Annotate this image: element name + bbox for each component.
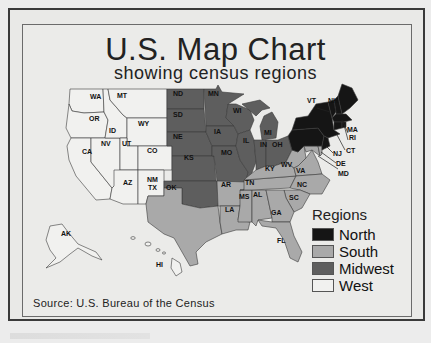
legend-swatch-south (312, 245, 334, 258)
label-sd: SD (173, 111, 183, 118)
label-nh: NH (328, 97, 338, 104)
label-wa: WA (90, 93, 101, 100)
label-fl: FL (277, 237, 286, 244)
label-vt: VT (307, 97, 317, 104)
legend-label: Midwest (339, 260, 394, 277)
label-tx: TX (148, 184, 157, 191)
label-al: AL (253, 191, 263, 198)
label-mn: MN (208, 90, 219, 97)
label-hi: HI (156, 261, 163, 268)
state-hi (131, 237, 182, 276)
legend-label: South (339, 243, 378, 260)
label-ut: UT (122, 140, 132, 147)
label-mo: MO (221, 149, 233, 156)
faint-caption-strip (10, 333, 150, 339)
label-ok: OK (166, 184, 177, 191)
label-ga: GA (271, 209, 282, 216)
state-ak (46, 224, 102, 268)
legend-item-west: West (312, 277, 394, 294)
source-note: Source: U.S. Bureau of the Census (33, 297, 215, 309)
label-nc: NC (297, 181, 307, 188)
region-west (46, 89, 182, 276)
label-id: ID (109, 127, 116, 134)
state-az (110, 170, 138, 204)
legend: Regions North South Midwest West (312, 206, 394, 294)
label-mi: MI (264, 129, 272, 136)
label-ia: IA (214, 128, 221, 135)
legend-swatch-north (312, 228, 334, 241)
label-wi: WI (233, 107, 242, 114)
label-ms: MS (239, 193, 250, 200)
label-ri: RI (349, 134, 356, 141)
legend-label: North (339, 226, 376, 243)
label-ma: MA (347, 126, 358, 133)
label-sc: SC (289, 194, 299, 201)
region-north (288, 84, 358, 152)
label-ks: KS (184, 154, 194, 161)
state-ct (334, 122, 342, 130)
label-tn: TN (245, 179, 254, 186)
label-nj: NJ (333, 150, 342, 157)
label-il: IL (243, 137, 250, 144)
state-ia (206, 126, 238, 146)
label-ky: KY (265, 165, 275, 172)
legend-swatch-midwest (312, 262, 334, 275)
label-co: CO (147, 147, 158, 154)
state-ks (172, 156, 216, 181)
label-oh: OH (272, 141, 283, 148)
label-ak: AK (61, 230, 71, 237)
label-ne: NE (173, 133, 183, 140)
label-ca: CA (82, 148, 92, 155)
label-ct: CT (346, 147, 356, 154)
label-va: VA (296, 167, 305, 174)
legend-item-south: South (312, 243, 394, 260)
legend-item-midwest: Midwest (312, 260, 394, 277)
label-in: IN (260, 141, 267, 148)
label-nm: NM (147, 176, 158, 183)
label-az: AZ (123, 179, 133, 186)
label-ar: AR (221, 181, 231, 188)
state-me (338, 84, 358, 114)
label-nd: ND (173, 90, 183, 97)
label-wy: WY (138, 120, 150, 127)
label-wv: WV (281, 161, 293, 168)
label-or: OR (89, 115, 100, 122)
label-de: DE (336, 160, 346, 167)
legend-item-north: North (312, 226, 394, 243)
label-mt: MT (117, 92, 128, 99)
label-md: MD (338, 170, 349, 177)
legend-label: West (339, 277, 373, 294)
legend-swatch-west (312, 279, 334, 292)
legend-title: Regions (312, 206, 394, 223)
label-nv: NV (101, 140, 111, 147)
label-la: LA (225, 206, 234, 213)
